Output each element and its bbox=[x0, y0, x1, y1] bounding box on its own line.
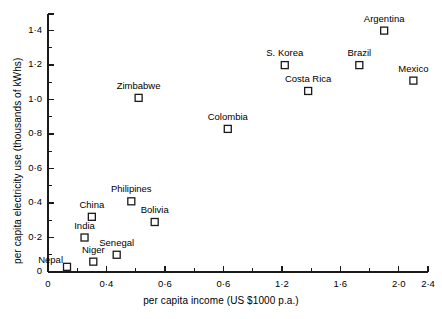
data-marker bbox=[224, 125, 231, 132]
point-label: Brazil bbox=[309, 47, 409, 58]
y-tick-label: 0·2 bbox=[4, 231, 42, 242]
point-label: Colombia bbox=[178, 111, 278, 122]
point-label: Costa Rica bbox=[258, 73, 358, 84]
data-marker bbox=[64, 263, 71, 270]
point-label: Nepal bbox=[0, 254, 63, 265]
data-marker bbox=[151, 219, 158, 226]
data-marker bbox=[135, 94, 142, 101]
scatter-chart: 00·40·60·61·21·62·02·4 00·20·40·60·81·01… bbox=[0, 0, 442, 319]
data-marker bbox=[356, 62, 363, 69]
point-label: Senegal bbox=[67, 237, 167, 248]
y-axis-title: per capita electricity use (thousands of… bbox=[12, 58, 23, 264]
x-axis-title: per capita income (US $1000 p.a.) bbox=[0, 295, 442, 306]
point-label: Bolivia bbox=[105, 204, 205, 215]
data-marker bbox=[305, 87, 312, 94]
y-tick-label: 0 bbox=[4, 265, 42, 276]
y-tick-label: 1·2 bbox=[4, 58, 42, 69]
y-tick-label: 1·4 bbox=[4, 24, 42, 35]
data-marker bbox=[281, 62, 288, 69]
y-tick-label: 1·0 bbox=[4, 93, 42, 104]
y-tick-label: 0·8 bbox=[4, 127, 42, 138]
x-tick-label: 0·4 bbox=[86, 278, 126, 289]
x-tick-label: 2·4 bbox=[408, 278, 442, 289]
data-marker bbox=[90, 258, 97, 265]
point-label: India bbox=[35, 220, 135, 231]
point-label: Philipines bbox=[81, 183, 181, 194]
y-tick-label: 0·6 bbox=[4, 162, 42, 173]
point-label: Mexico bbox=[363, 63, 442, 74]
y-tick-label: 0·4 bbox=[4, 196, 42, 207]
x-tick-label: 0·6 bbox=[203, 278, 243, 289]
data-marker bbox=[410, 77, 417, 84]
point-label: Zimbabwe bbox=[89, 80, 189, 91]
x-tick-label: 0·6 bbox=[145, 278, 185, 289]
point-label: Argentina bbox=[334, 13, 434, 24]
x-tick-label: 0 bbox=[28, 278, 68, 289]
data-marker bbox=[381, 27, 388, 34]
x-tick-label: 1·6 bbox=[320, 278, 360, 289]
x-tick-label: 1·2 bbox=[262, 278, 302, 289]
